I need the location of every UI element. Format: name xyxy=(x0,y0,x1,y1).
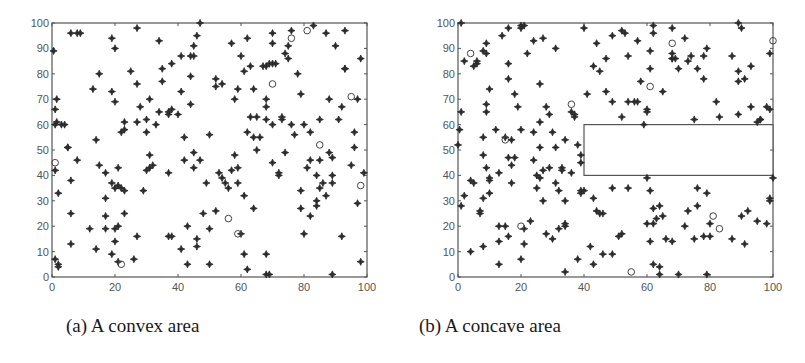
star-marker-icon xyxy=(703,45,710,52)
star-marker-icon xyxy=(480,243,487,250)
star-marker-icon xyxy=(694,65,701,72)
y-tick-label: 100 xyxy=(31,17,49,29)
star-marker-icon xyxy=(187,73,194,80)
star-marker-icon xyxy=(322,192,329,199)
star-marker-icon xyxy=(326,96,333,103)
star-marker-icon xyxy=(206,131,213,138)
star-marker-icon xyxy=(250,205,257,212)
star-marker-icon xyxy=(675,65,682,72)
star-marker-icon xyxy=(735,68,742,75)
scatter-plot-concave: 0204060801000102030405060708090100 xyxy=(406,0,805,300)
x-tick-label: 60 xyxy=(235,281,247,293)
star-marker-icon xyxy=(458,19,465,26)
star-marker-icon xyxy=(539,35,546,42)
star-marker-icon xyxy=(86,225,93,232)
star-marker-icon xyxy=(700,52,707,59)
x-tick-label: 0 xyxy=(455,281,461,293)
star-marker-icon xyxy=(102,225,109,232)
star-marker-icon xyxy=(307,157,314,164)
star-marker-icon xyxy=(562,268,569,275)
star-marker-icon xyxy=(747,103,754,110)
y-tick-label: 40 xyxy=(37,169,49,181)
star-marker-icon xyxy=(55,190,62,197)
star-marker-icon xyxy=(159,65,166,72)
star-marker-icon xyxy=(341,65,348,72)
star-marker-icon xyxy=(67,177,74,184)
star-marker-icon xyxy=(546,111,553,118)
star-marker-icon xyxy=(263,103,270,110)
star-marker-icon xyxy=(74,157,81,164)
star-marker-icon xyxy=(539,197,546,204)
star-marker-icon xyxy=(706,233,713,240)
y-tick-label: 90 xyxy=(443,42,455,54)
star-marker-icon xyxy=(111,45,118,52)
star-marker-icon xyxy=(263,116,270,123)
star-marker-icon xyxy=(357,55,364,62)
star-marker-icon xyxy=(590,195,597,202)
circle-marker-icon xyxy=(568,101,575,108)
panel-b-concave: 0204060801000102030405060708090100 xyxy=(406,0,805,300)
star-marker-icon xyxy=(140,187,147,194)
star-marker-icon xyxy=(694,185,701,192)
star-marker-icon xyxy=(502,223,509,230)
star-marker-icon xyxy=(196,19,203,26)
circle-marker-icon xyxy=(52,159,59,166)
circle-marker-icon xyxy=(304,27,311,34)
star-marker-icon xyxy=(669,24,676,31)
star-marker-icon xyxy=(728,235,735,242)
star-marker-icon xyxy=(322,30,329,37)
star-marker-icon xyxy=(499,32,506,39)
star-marker-icon xyxy=(602,88,609,95)
star-marker-icon xyxy=(234,179,241,186)
star-marker-icon xyxy=(483,108,490,115)
star-marker-icon xyxy=(93,136,100,143)
star-marker-icon xyxy=(492,126,499,133)
star-marker-icon xyxy=(269,40,276,47)
star-marker-icon xyxy=(647,238,654,245)
star-marker-icon xyxy=(596,68,603,75)
star-marker-icon xyxy=(241,192,248,199)
y-tick-label: 90 xyxy=(37,42,49,54)
star-marker-icon xyxy=(228,40,235,47)
y-tick-label: 40 xyxy=(443,169,455,181)
star-marker-icon xyxy=(483,101,490,108)
star-marker-icon xyxy=(593,40,600,47)
circle-marker-icon xyxy=(716,225,723,232)
star-marker-icon xyxy=(530,129,537,136)
star-marker-icon xyxy=(253,113,260,120)
star-marker-icon xyxy=(574,256,581,263)
star-marker-icon xyxy=(329,179,336,186)
star-marker-icon xyxy=(555,187,562,194)
star-marker-icon xyxy=(200,210,207,217)
star-marker-icon xyxy=(587,243,594,250)
star-marker-icon xyxy=(96,162,103,169)
star-marker-icon xyxy=(64,144,71,151)
star-marker-icon xyxy=(684,207,691,214)
y-tick-label: 70 xyxy=(443,93,455,105)
star-marker-icon xyxy=(156,37,163,44)
circle-marker-icon xyxy=(357,182,364,189)
star-marker-icon xyxy=(146,96,153,103)
star-marker-icon xyxy=(184,261,191,268)
star-marker-icon xyxy=(754,218,761,225)
star-marker-icon xyxy=(184,223,191,230)
panel-a-convex: 0204060801000102030405060708090100 xyxy=(0,0,400,300)
star-marker-icon xyxy=(269,30,276,37)
star-marker-icon xyxy=(329,172,336,179)
star-marker-icon xyxy=(108,88,115,95)
star-marker-icon xyxy=(96,70,103,77)
star-marker-icon xyxy=(332,42,339,49)
star-marker-icon xyxy=(456,126,463,133)
star-marker-icon xyxy=(152,121,159,128)
star-marker-icon xyxy=(338,103,345,110)
x-tick-label: 80 xyxy=(704,281,716,293)
circle-marker-icon xyxy=(467,50,474,57)
star-marker-icon xyxy=(67,210,74,217)
star-marker-icon xyxy=(505,24,512,31)
star-marker-icon xyxy=(244,35,251,42)
star-marker-icon xyxy=(647,187,654,194)
star-marker-icon xyxy=(190,164,197,171)
star-marker-icon xyxy=(231,151,238,158)
star-marker-icon xyxy=(52,167,59,174)
star-marker-icon xyxy=(549,235,556,242)
